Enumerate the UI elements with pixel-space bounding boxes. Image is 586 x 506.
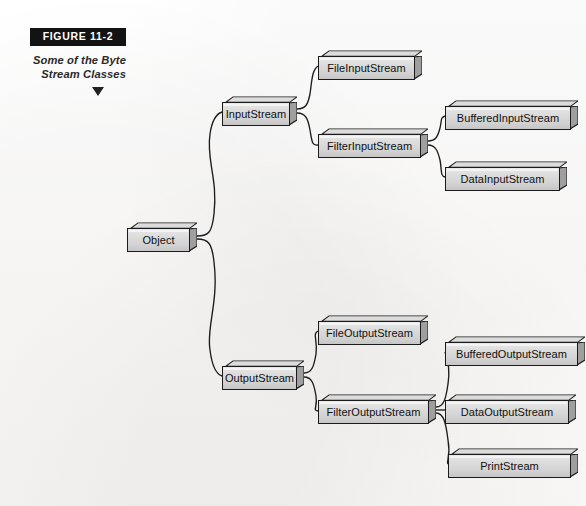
edge-input-stream-to-filter-input-stream xyxy=(297,113,318,145)
figure-caption-line-2: Stream Classes xyxy=(18,67,126,82)
node-object[interactable]: Object xyxy=(127,222,197,252)
node-face: Object xyxy=(127,228,190,252)
down-triangle-icon xyxy=(92,87,104,96)
node-input-stream[interactable]: InputStream xyxy=(222,96,297,126)
node-face-highlight xyxy=(320,58,413,60)
node-face-highlight xyxy=(320,136,419,138)
node-label: BufferedInputStream xyxy=(457,113,559,124)
node-label: PrintStream xyxy=(480,461,539,472)
edge-filter-input-stream-to-buffered-input-stream xyxy=(428,116,445,141)
node-filter-input-stream[interactable]: FilterInputStream xyxy=(318,128,428,158)
node-side-bevel xyxy=(559,167,567,191)
node-face-highlight xyxy=(450,456,569,458)
node-print-stream[interactable]: PrintStream xyxy=(448,448,578,478)
figure-page: FIGURE 11-2 Some of the Byte Stream Clas… xyxy=(0,0,586,506)
node-side-bevel xyxy=(577,342,585,366)
node-face: BufferedInputStream xyxy=(445,106,571,130)
node-label: Object xyxy=(142,235,174,246)
node-file-output-stream[interactable]: FileOutputStream xyxy=(318,315,428,345)
edge-object-to-output-stream xyxy=(197,239,222,376)
node-file-input-stream[interactable]: FileInputStream xyxy=(318,50,422,80)
node-side-bevel xyxy=(428,400,436,424)
node-side-bevel xyxy=(414,56,422,80)
node-face: DataInputStream xyxy=(445,167,560,191)
node-label: InputStream xyxy=(226,109,286,120)
node-label: BufferedOutputStream xyxy=(456,349,567,360)
node-side-bevel xyxy=(420,321,428,345)
node-face: DataOutputStream xyxy=(445,400,569,424)
node-label: OutputStream xyxy=(225,373,294,384)
node-face-highlight xyxy=(447,402,567,404)
node-face: PrintStream xyxy=(448,454,571,478)
node-face-highlight xyxy=(129,230,188,232)
node-label: FileInputStream xyxy=(327,63,405,74)
node-face: OutputStream xyxy=(222,366,297,390)
node-face-highlight xyxy=(447,108,569,110)
node-side-bevel xyxy=(189,228,197,252)
node-side-bevel xyxy=(570,454,578,478)
node-label: FilterInputStream xyxy=(327,141,412,152)
node-buffered-input-stream[interactable]: BufferedInputStream xyxy=(445,100,578,130)
node-face: BufferedOutputStream xyxy=(445,342,578,366)
node-face-highlight xyxy=(320,402,427,404)
node-face: InputStream xyxy=(222,102,290,126)
figure-caption-block: FIGURE 11-2 Some of the Byte Stream Clas… xyxy=(18,28,126,100)
node-label: DataInputStream xyxy=(461,174,545,185)
node-face-highlight xyxy=(320,323,419,325)
node-face-highlight xyxy=(224,368,295,370)
node-side-bevel xyxy=(296,366,304,390)
node-label: FilterOutputStream xyxy=(327,407,421,418)
node-side-bevel xyxy=(420,134,428,158)
figure-number-tag: FIGURE 11-2 xyxy=(30,28,126,46)
edge-input-stream-to-file-input-stream xyxy=(297,66,318,109)
node-face-highlight xyxy=(224,104,288,106)
figure-caption-text: Some of the Byte Stream Classes xyxy=(18,53,126,82)
node-face: FilterInputStream xyxy=(318,134,421,158)
node-side-bevel xyxy=(289,102,297,126)
node-face-highlight xyxy=(447,344,576,346)
node-face: FileInputStream xyxy=(318,56,415,80)
node-face: FileOutputStream xyxy=(318,321,421,345)
node-label: DataOutputStream xyxy=(461,407,554,418)
node-buffered-output-stream[interactable]: BufferedOutputStream xyxy=(445,336,585,366)
node-face-highlight xyxy=(447,169,558,171)
node-label: FileOutputStream xyxy=(326,328,413,339)
node-side-bevel xyxy=(570,106,578,130)
node-data-output-stream[interactable]: DataOutputStream xyxy=(445,394,576,424)
edge-object-to-input-stream xyxy=(197,112,222,236)
node-data-input-stream[interactable]: DataInputStream xyxy=(445,161,567,191)
figure-caption-line-1: Some of the Byte xyxy=(18,53,126,68)
node-side-bevel xyxy=(568,400,576,424)
edge-filter-input-stream-to-data-input-stream xyxy=(428,145,445,177)
edge-output-stream-to-file-output-stream xyxy=(304,331,318,373)
node-output-stream[interactable]: OutputStream xyxy=(222,360,304,390)
node-face: FilterOutputStream xyxy=(318,400,429,424)
edge-output-stream-to-filter-output-stream xyxy=(304,377,318,411)
node-filter-output-stream[interactable]: FilterOutputStream xyxy=(318,394,436,424)
